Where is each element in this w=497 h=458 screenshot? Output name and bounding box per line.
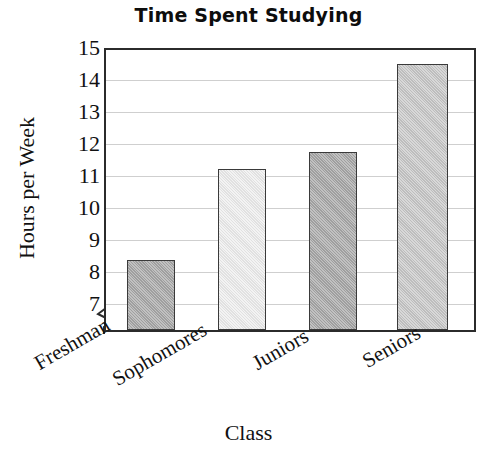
bar-seniors[interactable] (397, 64, 448, 330)
y-tick-9: 9 (56, 229, 100, 251)
y-tick-13: 13 (56, 101, 100, 123)
y-tick-11: 11 (56, 165, 100, 187)
y-axis-tick-labels: 15 14 13 12 11 10 9 8 7 (52, 48, 100, 348)
bar-freshman[interactable] (127, 260, 175, 330)
x-axis-tick-labels: Freshman Sophomores Juniors Seniors (0, 332, 497, 412)
y-tick-10: 10 (56, 197, 100, 219)
y-tick-14: 14 (56, 69, 100, 91)
plot-area (104, 48, 476, 332)
y-axis-title: Hours per Week (14, 88, 40, 288)
x-tick-juniors: Juniors (248, 324, 313, 376)
bar-chart: Time Spent Studying Hours per Week 15 14… (0, 0, 497, 458)
y-tick-12: 12 (56, 133, 100, 155)
chart-title: Time Spent Studying (0, 4, 497, 26)
bar-sophomores[interactable] (218, 169, 266, 330)
y-tick-8: 8 (56, 261, 100, 283)
bar-juniors[interactable] (309, 152, 357, 331)
y-tick-15: 15 (56, 37, 100, 59)
x-axis-title: Class (0, 420, 497, 446)
